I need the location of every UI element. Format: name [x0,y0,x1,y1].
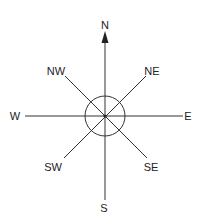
label-northwest: NW [47,65,66,77]
north-arrow-icon [102,31,109,43]
center-dot [103,114,106,117]
label-northeast: NE [144,65,159,77]
label-south: S [100,202,107,214]
label-southeast: SE [144,161,159,173]
label-north: N [101,19,109,31]
compass-rose: N NE E SE S SW W NW [0,0,205,224]
label-southwest: SW [44,161,62,173]
label-east: E [184,110,191,122]
label-west: W [10,110,21,122]
